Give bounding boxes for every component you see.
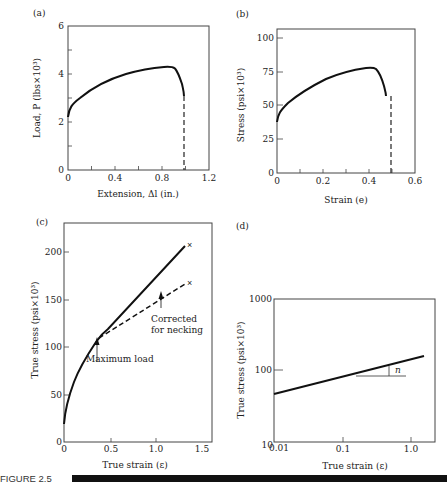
true-stress-strain-curve	[64, 246, 185, 424]
load-extension-curve	[68, 67, 184, 117]
x-tick-label: 1.2	[202, 173, 216, 183]
y-tick-label: 50	[263, 100, 275, 110]
panel-a: (a) 0 2 4 6 0 0.4 0.8 1.2 Extension, Δl …	[32, 8, 216, 199]
y-tick-label: 50	[51, 390, 63, 400]
x-tick-label: 0	[274, 176, 280, 186]
figure-rule-bar	[72, 475, 447, 482]
annotation-corrected: Corrected	[151, 314, 197, 324]
plot-frame-b	[277, 29, 415, 173]
y-axis-label-b: Stress (psi×10³)	[236, 68, 246, 142]
y-tick-label: 100	[255, 365, 272, 375]
endpoint-x-marker: ×	[187, 278, 192, 288]
x-axis-label-c: True strain (ε)	[102, 460, 167, 470]
y-tick-label: 1000	[249, 294, 272, 304]
figure-label: FIGURE 2.5	[0, 473, 52, 484]
y-ticks-c	[64, 252, 69, 395]
y-axis-label-c: True stress (psi×10³)	[30, 281, 40, 378]
x-tick-label: 0.6	[408, 176, 423, 186]
y-tick-label: 150	[45, 295, 62, 305]
panel-label-d: (d)	[236, 221, 249, 231]
x-tick-label: 0	[65, 173, 71, 183]
y-tick-label: 4	[58, 69, 64, 79]
annotation-for-necking: for necking	[151, 325, 203, 335]
plot-frame-a	[68, 26, 209, 170]
panel-c: (c) 0 50 100 150 200 0 0.5 1.0 1.5 True …	[30, 217, 212, 470]
x-tick-label: 0.4	[108, 173, 123, 183]
x-tick-label: 0.5	[104, 444, 119, 454]
x-tick-label: 0	[61, 444, 67, 454]
x-tick-label: 0.1	[336, 444, 350, 454]
x-axis-label-b: Strain (e)	[324, 195, 367, 205]
y-axis-label-d: True stress (psi×10³)	[236, 321, 246, 418]
endpoint-x-marker: ×	[187, 240, 192, 250]
arrow-head-icon	[159, 291, 164, 299]
x-ticks-c	[111, 438, 156, 442]
y-ticks-a	[68, 50, 72, 146]
x-ticks-b	[300, 169, 392, 173]
x-tick-label: 1.0	[149, 444, 164, 454]
y-tick-label: 2	[58, 117, 64, 127]
panel-d: (d) 10 100 1000 0.01 0.1 1.0 True strain…	[236, 221, 435, 471]
x-tick-label: 1.5	[195, 444, 210, 454]
x-tick-label: 0.8	[155, 173, 170, 183]
y-tick-label: 0	[58, 165, 64, 175]
figure-canvas: (a) 0 2 4 6 0 0.4 0.8 1.2 Extension, Δl …	[0, 0, 447, 488]
panel-b: (b) 0 25 50 75 100 0 0.2 0.4 0.6 Strain …	[236, 9, 422, 205]
y-tick-label: 100	[45, 342, 62, 352]
x-tick-label: 0.4	[362, 176, 377, 186]
plot-frame-d	[274, 299, 435, 442]
panel-label-b: (b)	[236, 9, 249, 19]
x-axis-label-a: Extension, Δl (in.)	[97, 189, 179, 199]
x-axis-label-d: True strain (ε)	[322, 461, 387, 471]
panel-label-a: (a)	[33, 8, 45, 18]
x-tick-label: 0.01	[269, 443, 289, 453]
stress-strain-curve	[277, 68, 386, 122]
power-law-line	[274, 356, 424, 394]
y-tick-label: 100	[257, 33, 274, 43]
x-tick-label: 0.2	[316, 176, 330, 186]
panel-label-c: (c)	[36, 217, 48, 227]
y-tick-label: 6	[58, 21, 64, 31]
slope-label-n: n	[395, 365, 401, 375]
y-tick-label: 25	[263, 134, 275, 144]
y-axis-label-a: Load, P (lbs×10³)	[32, 58, 42, 138]
x-ticks-a	[92, 166, 186, 170]
y-tick-label: 200	[45, 247, 62, 257]
annotation-maximum-load: Maximum load	[86, 354, 154, 364]
x-tick-label: 1.0	[404, 444, 419, 454]
y-ticks-b	[277, 38, 283, 139]
y-tick-label: 75	[263, 67, 275, 77]
